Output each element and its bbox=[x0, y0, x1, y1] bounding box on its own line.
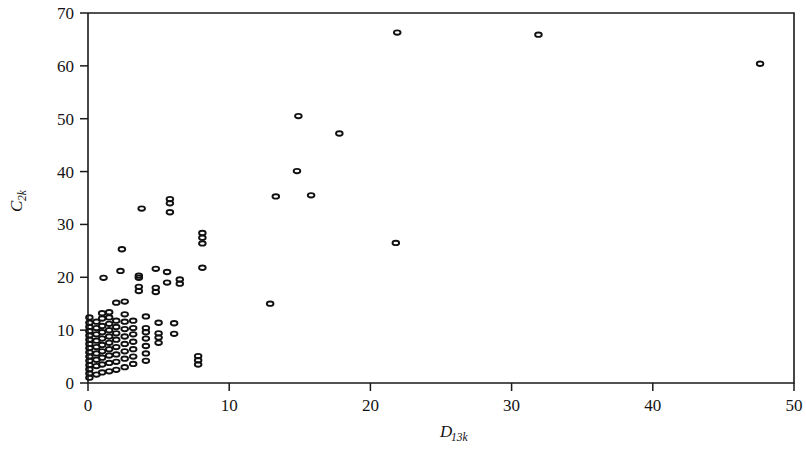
data-point bbox=[106, 334, 113, 338]
data-point bbox=[99, 316, 106, 320]
data-point bbox=[136, 285, 143, 289]
data-point bbox=[130, 318, 137, 322]
scatter-plot-canvas: 010203040506070 01020304050 C 2k D 13k bbox=[0, 0, 806, 451]
data-point bbox=[308, 193, 315, 197]
data-point bbox=[535, 32, 542, 36]
data-point bbox=[155, 341, 162, 345]
data-point bbox=[117, 269, 124, 273]
x-axis-tick-label: 20 bbox=[362, 396, 379, 415]
data-point bbox=[86, 315, 93, 319]
data-point bbox=[167, 197, 174, 201]
data-point bbox=[113, 368, 120, 372]
y-axis-tick-label: 0 bbox=[66, 374, 75, 393]
y-axis-tick-label: 20 bbox=[57, 268, 74, 287]
y-axis-tick-label: 10 bbox=[57, 321, 74, 340]
data-point bbox=[199, 241, 206, 245]
data-point bbox=[121, 334, 128, 338]
data-point bbox=[267, 302, 274, 306]
data-point bbox=[106, 361, 113, 365]
data-point bbox=[130, 347, 137, 351]
data-point bbox=[106, 310, 113, 314]
data-point bbox=[106, 347, 113, 351]
data-point bbox=[106, 341, 113, 345]
data-point bbox=[113, 300, 120, 304]
x-axis-tick-label: 0 bbox=[84, 396, 93, 415]
data-point bbox=[199, 235, 206, 239]
y-axis-tick-label: 50 bbox=[57, 110, 74, 129]
y-axis-tick-label: 60 bbox=[57, 57, 74, 76]
data-point bbox=[195, 354, 202, 358]
data-point bbox=[119, 247, 126, 251]
data-point bbox=[171, 332, 178, 336]
data-point bbox=[171, 321, 178, 325]
data-point bbox=[152, 267, 159, 271]
data-point bbox=[336, 131, 343, 135]
data-point bbox=[394, 30, 401, 34]
data-point bbox=[113, 352, 120, 356]
scatter-plot-figure: 010203040506070 01020304050 C 2k D 13k bbox=[0, 0, 806, 451]
data-point bbox=[106, 369, 113, 373]
data-point bbox=[121, 319, 128, 323]
data-point bbox=[130, 354, 137, 358]
data-point bbox=[113, 345, 120, 349]
data-point bbox=[143, 359, 150, 363]
data-point bbox=[121, 356, 128, 360]
x-axis-tick-label: 30 bbox=[503, 396, 520, 415]
data-point bbox=[106, 322, 113, 326]
data-point bbox=[138, 206, 145, 210]
y-axis: 010203040506070 bbox=[57, 4, 88, 393]
data-point bbox=[199, 266, 206, 270]
y-axis-title-subscript: 2k bbox=[16, 189, 28, 201]
data-point bbox=[130, 362, 137, 366]
data-point bbox=[155, 331, 162, 335]
data-point bbox=[99, 311, 106, 315]
data-point bbox=[106, 328, 113, 332]
plot-frame bbox=[88, 13, 794, 383]
data-point bbox=[130, 340, 137, 344]
data-point bbox=[121, 342, 128, 346]
x-axis-title-subscript: 13k bbox=[451, 431, 469, 443]
y-axis-tick-label: 70 bbox=[57, 4, 74, 23]
data-point bbox=[143, 314, 150, 318]
data-point-series bbox=[86, 30, 763, 380]
data-point bbox=[113, 337, 120, 341]
x-axis: 01020304050 bbox=[84, 383, 803, 415]
data-point bbox=[152, 286, 159, 290]
data-point bbox=[143, 344, 150, 348]
data-point bbox=[86, 321, 93, 325]
data-point bbox=[176, 277, 183, 281]
data-point bbox=[294, 169, 301, 173]
data-point bbox=[121, 349, 128, 353]
data-point bbox=[121, 312, 128, 316]
data-point bbox=[164, 280, 171, 284]
data-point bbox=[167, 210, 174, 214]
data-point bbox=[199, 231, 206, 235]
data-point bbox=[143, 336, 150, 340]
data-point bbox=[106, 353, 113, 357]
data-point bbox=[113, 318, 120, 322]
data-point bbox=[121, 327, 128, 331]
data-point bbox=[113, 325, 120, 329]
data-point bbox=[130, 332, 137, 336]
x-axis-tick-label: 50 bbox=[786, 396, 803, 415]
data-point bbox=[164, 270, 171, 274]
x-axis-tick-label: 10 bbox=[221, 396, 238, 415]
data-point bbox=[273, 194, 280, 198]
data-point bbox=[121, 365, 128, 369]
data-point bbox=[106, 315, 113, 319]
data-point bbox=[143, 326, 150, 330]
data-point bbox=[113, 360, 120, 364]
data-point bbox=[295, 114, 302, 118]
data-point bbox=[143, 351, 150, 355]
x-axis-title: D 13k bbox=[439, 422, 469, 443]
data-point bbox=[121, 299, 128, 303]
data-point bbox=[155, 321, 162, 325]
data-point bbox=[757, 62, 764, 66]
y-axis-tick-label: 40 bbox=[57, 163, 74, 182]
y-axis-tick-label: 30 bbox=[57, 215, 74, 234]
y-axis-title: C 2k bbox=[7, 189, 28, 212]
data-point bbox=[100, 276, 107, 280]
data-point bbox=[393, 241, 400, 245]
data-point bbox=[113, 331, 120, 335]
data-point bbox=[130, 326, 137, 330]
